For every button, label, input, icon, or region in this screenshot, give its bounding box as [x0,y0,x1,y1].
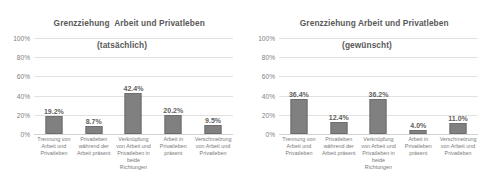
category-label: Trennung von Arbeit und Privatleben [279,136,319,171]
plot-area-desired: 100% 80% 60% 40% 20% 0% 36.4% [279,38,478,134]
category-label: Verschmelzung von Arbeit und Privatleben [438,136,478,171]
ytick-20: 20% [262,111,275,118]
bar[interactable] [165,115,182,134]
bar-slot: 19.2% [34,38,74,134]
category-label: Privatleben während der Arbeit präsent [319,136,359,171]
category-label: Verknüpfung von Arbeit und Privatleben i… [114,136,154,171]
ytick-0: 0% [20,131,30,138]
category-label: Verknüpfung von Arbeit und Privatleben i… [359,136,399,171]
bar[interactable] [85,126,102,134]
ytick-80: 80% [17,54,30,61]
bar-value-label: 36.2% [369,91,389,98]
ytick-0: 0% [265,131,275,138]
bar-value-label: 4.0% [410,122,426,129]
ytick-40: 40% [262,92,275,99]
bar-slot: 11.0% [438,38,478,134]
bar-series-actual: 19.2% 8.7% 42.4% 20.2% 9.5% [34,38,233,134]
bar[interactable] [330,122,347,134]
bar-value-label: 9.5% [205,117,221,124]
category-label: Arbeit in Privatleben präsent [153,136,193,171]
bar-value-label: 19.2% [44,108,64,115]
bar-slot: 36.2% [359,38,399,134]
ytick-40: 40% [17,92,30,99]
bar-value-label: 20.2% [163,107,183,114]
gridline-0: 0% [34,134,233,135]
bar[interactable] [290,99,307,134]
bar[interactable] [370,99,387,134]
bar-value-label: 36.4% [289,91,309,98]
bar-slot: 4.0% [398,38,438,134]
bar-slot: 42.4% [114,38,154,134]
bar-slot: 8.7% [74,38,114,134]
bar[interactable] [205,125,222,134]
bar-value-label: 42.4% [124,85,144,92]
category-label: Privatleben während der Arbeit präsent [74,136,114,171]
category-axis-actual: Trennung von Arbeit und Privatleben Priv… [34,136,233,171]
plot-area-actual: 100% 80% 60% 40% 20% 0% 19.2% [34,38,233,134]
bar-value-label: 8.7% [86,118,102,125]
bar[interactable] [125,93,142,134]
ytick-100: 100% [13,35,30,42]
ytick-60: 60% [262,73,275,80]
chart-tatsaechlich: Grenzziehung Arbeit und Privatleben (tat… [0,0,244,185]
category-label: Arbeit in Privatleben präsent [398,136,438,171]
bar-series-desired: 36.4% 12.4% 36.2% 4.0% 11.0% [279,38,478,134]
ytick-80: 80% [262,54,275,61]
category-label: Verschmelzung von Arbeit und Privatleben [193,136,233,171]
category-axis-desired: Trennung von Arbeit und Privatleben Priv… [279,136,478,171]
gridline-0: 0% [279,134,478,135]
ytick-60: 60% [17,73,30,80]
charts-container: Grenzziehung Arbeit und Privatleben (tat… [0,0,489,185]
bar-slot: 9.5% [193,38,233,134]
bar-value-label: 12.4% [329,114,349,121]
bar-slot: 20.2% [153,38,193,134]
ytick-20: 20% [17,111,30,118]
chart-title-desired-main: Grenzziehung Arbeit und Privatleben [300,18,449,28]
bar[interactable] [45,116,62,134]
bar-slot: 12.4% [319,38,359,134]
bar[interactable] [450,123,467,134]
chart-gewuenscht: Grenzziehung Arbeit und Privatleben (gew… [245,0,489,185]
bar-slot: 36.4% [279,38,319,134]
ytick-100: 100% [258,35,275,42]
chart-title-actual-main: Grenzziehung Arbeit und Privatleben [54,18,205,28]
category-label: Trennung von Arbeit und Privatleben [34,136,74,171]
bar-value-label: 11.0% [448,115,467,122]
bar[interactable] [410,130,427,134]
